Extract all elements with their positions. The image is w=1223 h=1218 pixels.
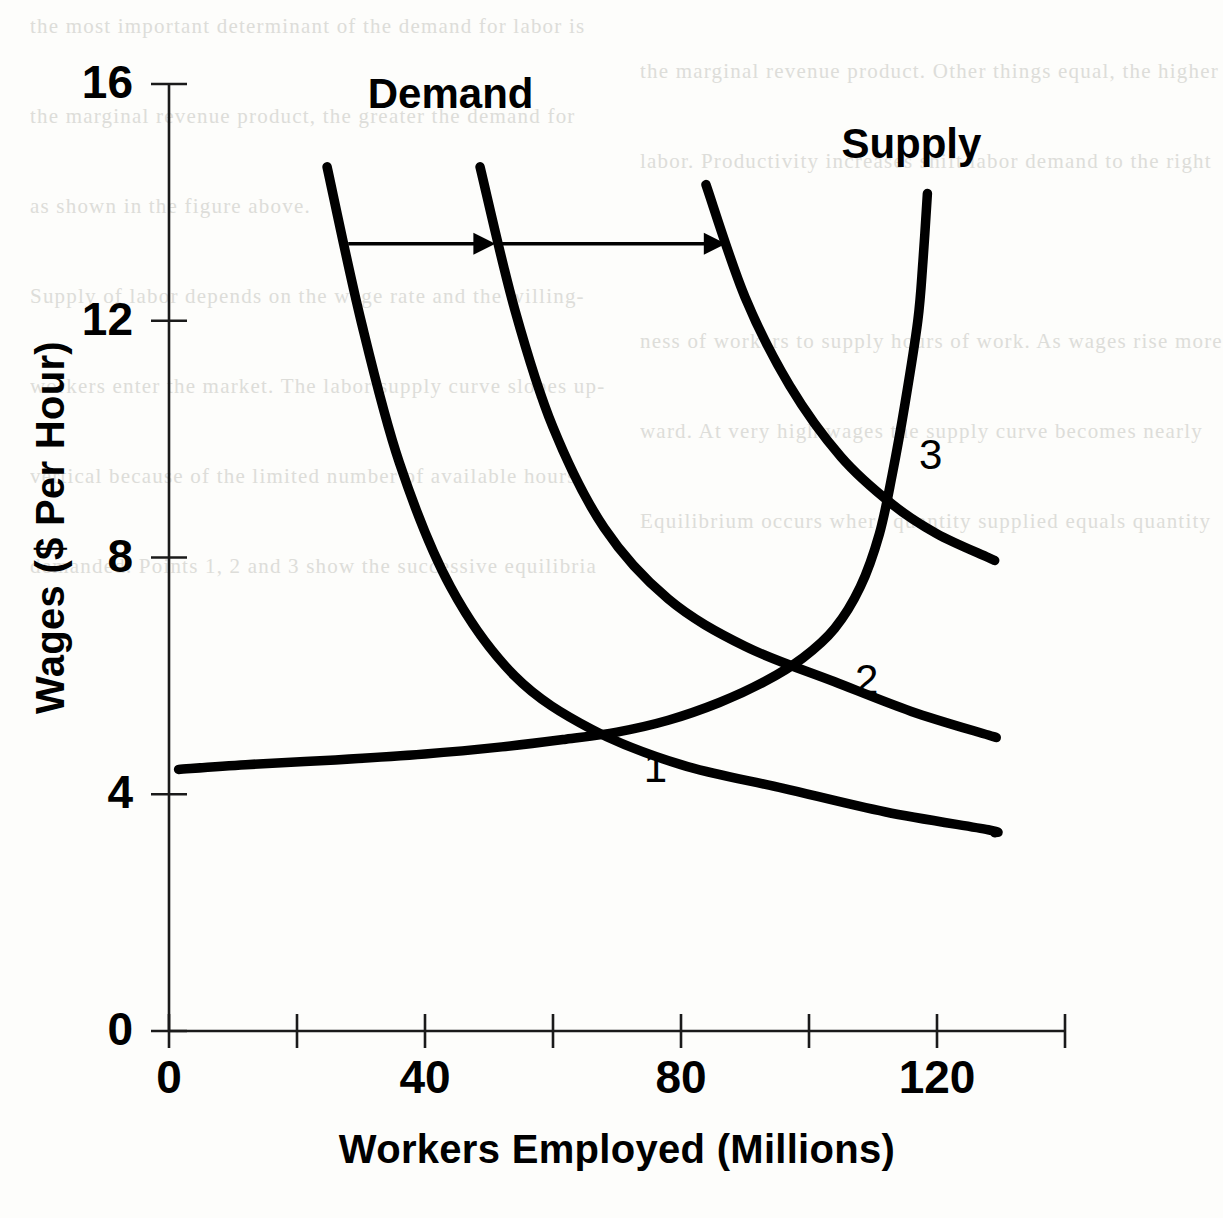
equilibrium-label-1: 1 bbox=[644, 744, 667, 791]
curve-demand-1 bbox=[327, 167, 998, 833]
x-axis-tick-labels: 04080120 bbox=[156, 1051, 975, 1103]
y-tick-label-16: 16 bbox=[82, 56, 133, 108]
x-axis-title: Workers Employed (Millions) bbox=[339, 1127, 895, 1171]
demand-label: Demand bbox=[368, 70, 534, 117]
x-tick-label-80: 80 bbox=[655, 1051, 706, 1103]
y-tick-label-8: 8 bbox=[107, 530, 133, 582]
curve-group bbox=[179, 167, 998, 833]
curve-demand-3 bbox=[706, 185, 995, 561]
curve-supply bbox=[179, 194, 928, 770]
y-axis-title: Wages ($ Per Hour) bbox=[28, 341, 72, 714]
x-tick-label-40: 40 bbox=[399, 1051, 450, 1103]
x-tick-label-0: 0 bbox=[156, 1051, 182, 1103]
x-tick-label-120: 120 bbox=[899, 1051, 976, 1103]
shift-arrow-group bbox=[348, 233, 726, 255]
equilibrium-label-3: 3 bbox=[919, 431, 942, 478]
y-tick-label-4: 4 bbox=[107, 766, 133, 818]
curve-label-group: DemandSupply bbox=[368, 70, 982, 167]
y-axis-tick-labels: 0481216 bbox=[82, 56, 134, 1055]
axis-title-group: Workers Employed (Millions)Wages ($ Per … bbox=[28, 341, 895, 1171]
supply-label: Supply bbox=[841, 120, 982, 167]
equilibrium-label-2: 2 bbox=[855, 656, 878, 703]
y-tick-label-12: 12 bbox=[82, 293, 133, 345]
y-tick-label-0: 0 bbox=[107, 1003, 133, 1055]
